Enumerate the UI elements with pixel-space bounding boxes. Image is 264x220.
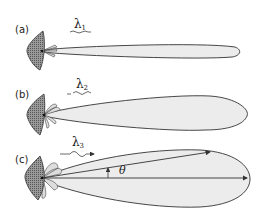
- wave-icon-b: [67, 92, 91, 95]
- reflector-b: [27, 94, 45, 135]
- main-lobe-a: [42, 45, 240, 58]
- antenna-beam-diagram: (a) λ1 (b) λ2 (c) λ3 θ: [0, 0, 264, 220]
- feed-point-b: [43, 114, 46, 117]
- main-lobe-c: [42, 150, 250, 207]
- panel-c: (c) λ3 θ: [15, 135, 250, 207]
- panel-label-a: (a): [15, 24, 29, 35]
- panel-a: (a) λ1: [15, 17, 240, 70]
- feed-point-c: [41, 177, 44, 180]
- wavelength-label-b: λ2: [76, 77, 88, 92]
- wavelength-label-c: λ3: [72, 135, 84, 150]
- main-lobe-b: [44, 96, 247, 131]
- wavelength-label-a: λ1: [74, 17, 86, 32]
- angle-label-theta: θ: [119, 164, 126, 177]
- feed-point-a: [41, 50, 44, 53]
- wave-icon-a: [70, 31, 91, 33]
- panel-label-b: (b): [15, 89, 29, 100]
- wave-icon-c: [60, 152, 94, 157]
- panel-b: (b) λ2: [15, 77, 247, 135]
- panel-label-c: (c): [15, 154, 28, 165]
